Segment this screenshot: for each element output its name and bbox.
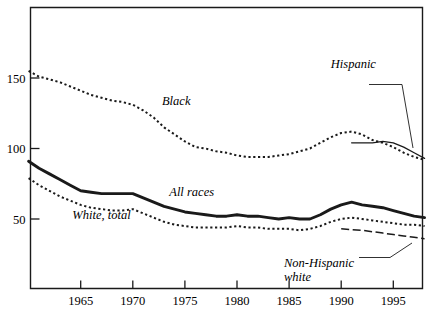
series-label-non-hispanic-white: Non-Hispanic [283,256,355,270]
line-chart: 50100150 1965197019751980198519901995 Bl… [0,0,433,322]
series-label-white-total: White, total [72,208,131,222]
x-tick-label: 1990 [329,294,354,308]
x-tick-label: 1975 [172,294,197,308]
x-tick-label: 1970 [120,294,145,308]
x-tick-label: 1995 [381,294,406,308]
series-label-hispanic: Hispanic [330,57,377,71]
x-tick-label: 1980 [225,294,250,308]
series-label-all-races: All races [168,185,214,199]
chart-background [0,0,433,322]
y-tick-label: 150 [7,72,26,86]
chart-container: 50100150 1965197019751980198519901995 Bl… [0,0,433,322]
x-tick-label: 1985 [277,294,302,308]
y-tick-label: 50 [13,213,26,227]
x-tick-label: 1965 [68,294,93,308]
y-tick-label: 100 [7,142,26,156]
series-label-black: Black [162,94,191,108]
series-label-non-hispanic-white-line2: white [284,270,312,284]
